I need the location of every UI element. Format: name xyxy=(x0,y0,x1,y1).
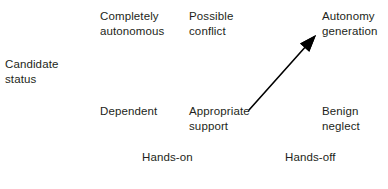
cell-completely-autonomous: Completely autonomous xyxy=(100,9,164,39)
vertical-axis-label-candidate-status: Candidate status xyxy=(5,57,58,87)
cell-dependent: Dependent xyxy=(100,104,157,119)
cell-autonomy-generation: Autonomy generation xyxy=(322,9,378,39)
horizontal-axis-label-hands-on: Hands-on xyxy=(142,150,193,165)
cell-possible-conflict: Possible conflict xyxy=(189,9,233,39)
matrix-diagram: Candidate status Completely autonomous P… xyxy=(0,0,388,189)
cell-appropriate-support: Appropriate support xyxy=(189,104,250,134)
cell-benign-neglect: Benign neglect xyxy=(322,104,360,134)
progression-arrow-icon xyxy=(249,35,316,110)
horizontal-axis-label-hands-off: Hands-off xyxy=(285,150,336,165)
